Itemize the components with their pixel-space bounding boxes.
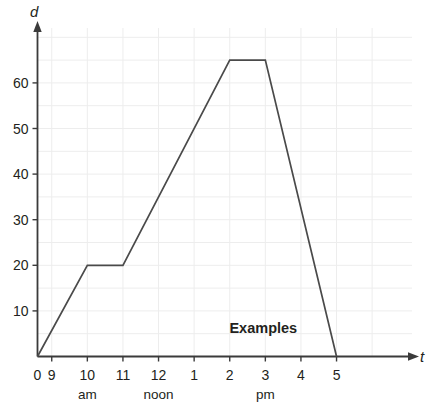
data-line-distance: [38, 60, 337, 356]
x-tick-label: 5: [325, 368, 349, 382]
y-axis-arrowhead: [33, 21, 41, 32]
y-tick-label: 30: [0, 213, 29, 227]
x-axis-arrowhead: [408, 352, 419, 360]
data-series-line: [38, 60, 337, 356]
chart-annotation: Examples: [229, 321, 297, 336]
gridlines: [38, 28, 413, 357]
x-tick-label: 9: [40, 368, 64, 382]
y-tick-label: 60: [0, 76, 29, 90]
x-tick-label: 12: [147, 368, 171, 382]
x-period-label: pm: [235, 388, 295, 402]
x-period-label: am: [57, 388, 117, 402]
x-period-label: noon: [129, 388, 189, 402]
axes: [33, 21, 419, 361]
x-tick-label: 4: [289, 368, 313, 382]
x-axis-title: t: [420, 349, 424, 364]
x-tick-label: 1: [182, 368, 206, 382]
x-tick-label: 11: [111, 368, 135, 382]
x-tick-label: 3: [253, 368, 277, 382]
x-tick-label: 10: [75, 368, 99, 382]
y-tick-label: 10: [0, 304, 29, 318]
x-tick-label: 2: [218, 368, 242, 382]
y-axis-title: d: [30, 4, 38, 19]
y-tick-label: 40: [0, 167, 29, 181]
y-tick-label: 20: [0, 258, 29, 272]
y-tick-label: 50: [0, 122, 29, 136]
